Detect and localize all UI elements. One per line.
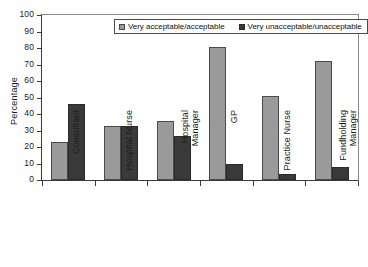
y-axis-tick-label: 70 <box>24 59 34 69</box>
x-axis-label: FundholdingManager <box>338 110 358 190</box>
bar <box>104 126 121 180</box>
x-axis-label-line: Hospital <box>180 110 190 190</box>
x-axis-tick-mark <box>147 181 148 186</box>
y-axis-tick-label: 20 <box>24 141 34 151</box>
chart-legend: Very acceptable/acceptable Very unaccept… <box>114 19 368 34</box>
x-axis-tick-mark <box>42 181 43 186</box>
legend-swatch-icon-acceptable <box>119 24 125 30</box>
y-axis-tick-label: 0 <box>29 174 34 184</box>
y-axis-tick-label: 40 <box>24 108 34 118</box>
legend-label-unacceptable: Very unacceptable/unacceptable <box>248 22 362 31</box>
legend-label-acceptable: Very acceptable/acceptable <box>128 22 225 31</box>
x-axis-label-line: Practice Nurse <box>282 110 292 190</box>
y-axis-tick-label: 50 <box>24 92 34 102</box>
x-axis-label: Hospital Nurse <box>124 110 134 190</box>
y-axis-tick-label: 30 <box>24 125 34 135</box>
x-axis-label-line: Consultant <box>71 110 81 190</box>
x-axis-label-line: GP <box>229 110 239 190</box>
y-axis-tick-label: 90 <box>24 26 34 36</box>
x-axis-label: Consultant <box>71 110 81 190</box>
x-axis-label: HospitalManager <box>180 110 200 190</box>
bar <box>157 121 174 180</box>
x-axis-label: GP <box>229 110 239 190</box>
x-axis-label-line: Manager <box>348 110 358 190</box>
legend-swatch-icon-unacceptable <box>239 24 245 30</box>
bar <box>262 96 279 180</box>
x-axis-tick-mark <box>200 181 201 186</box>
x-axis-label-line: Hospital Nurse <box>124 110 134 190</box>
x-axis-label-line: Manager <box>190 110 200 190</box>
bar <box>209 47 226 180</box>
legend-item-acceptable: Very acceptable/acceptable <box>119 22 225 31</box>
x-axis-tick-mark <box>358 181 359 186</box>
y-axis-tick-label: 10 <box>24 158 34 168</box>
bars-layer <box>42 15 358 180</box>
x-axis-tick-mark <box>253 181 254 186</box>
y-axis-title: Percentage <box>9 56 19 146</box>
legend-item-unacceptable: Very unacceptable/unacceptable <box>239 22 362 31</box>
x-axis-label-line: Fundholding <box>338 110 348 190</box>
bar <box>51 142 68 180</box>
x-axis-tick-mark <box>305 181 306 186</box>
x-axis-tick-mark <box>95 181 96 186</box>
y-axis-tick-label: 100 <box>20 9 34 19</box>
y-axis-tick-label: 60 <box>24 75 34 85</box>
y-axis-tick-label: 80 <box>24 42 34 52</box>
x-axis-label: Practice Nurse <box>282 110 292 190</box>
bar <box>315 61 332 180</box>
